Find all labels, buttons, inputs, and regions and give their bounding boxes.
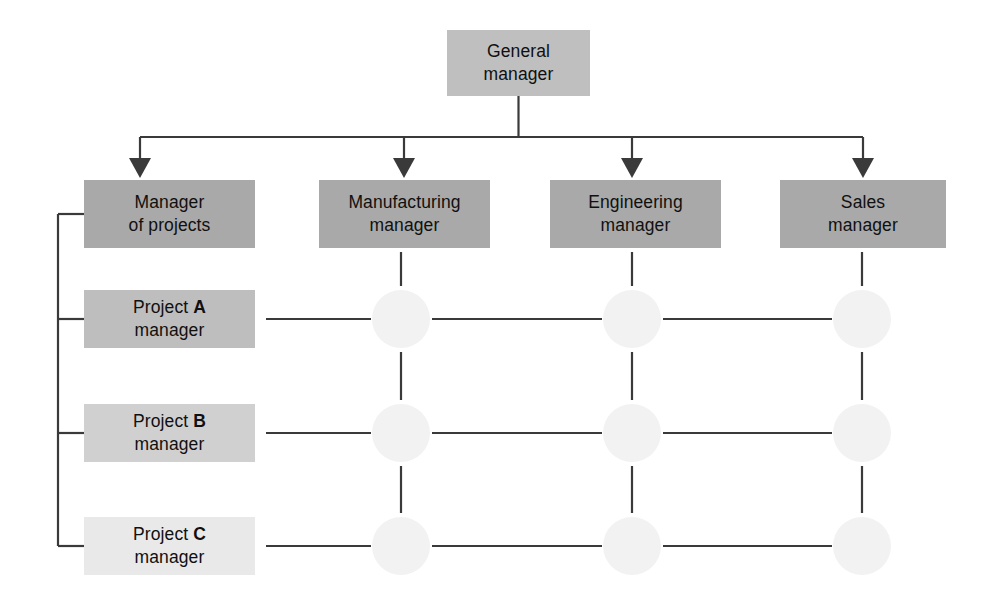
node-manufacturing-manager-line2: manager: [370, 214, 440, 237]
node-sales-manager[interactable]: Sales manager: [780, 180, 946, 248]
node-project-c-manager-line1: Project C: [133, 523, 206, 546]
project-a-prefix: Project: [133, 297, 193, 317]
arrowhead-engineering: [621, 158, 643, 178]
node-project-a-manager-line1: Project A: [133, 296, 206, 319]
arrowhead-manufacturing: [393, 158, 415, 178]
node-engineering-manager[interactable]: Engineering manager: [550, 180, 721, 248]
intersection-dot-manufacturing-project-a: [372, 290, 430, 348]
arrowhead-manager-of-projects: [129, 158, 151, 178]
node-general-manager[interactable]: General manager: [447, 30, 590, 96]
intersection-dot-sales-project-c: [833, 517, 891, 575]
node-general-manager-line2: manager: [484, 63, 554, 86]
org-chart-canvas: General manager Manager of projects Manu…: [0, 0, 991, 609]
node-project-a-manager[interactable]: Project A manager: [84, 290, 255, 348]
intersection-dot-sales-project-b: [833, 404, 891, 462]
intersection-dot-manufacturing-project-b: [372, 404, 430, 462]
project-c-prefix: Project: [133, 524, 193, 544]
node-manager-of-projects-line2: of projects: [129, 214, 211, 237]
node-sales-manager-line2: manager: [828, 214, 898, 237]
node-project-b-manager-line1: Project B: [133, 410, 206, 433]
arrowhead-sales: [852, 158, 874, 178]
node-project-c-manager[interactable]: Project C manager: [84, 517, 255, 575]
node-engineering-manager-line1: Engineering: [588, 191, 683, 214]
node-manufacturing-manager[interactable]: Manufacturing manager: [319, 180, 490, 248]
node-project-b-manager[interactable]: Project B manager: [84, 404, 255, 462]
project-c-letter: C: [193, 524, 206, 544]
node-manager-of-projects[interactable]: Manager of projects: [84, 180, 255, 248]
intersection-dot-sales-project-a: [833, 290, 891, 348]
node-general-manager-line1: General: [487, 40, 550, 63]
intersection-dot-engineering-project-c: [603, 517, 661, 575]
node-project-a-manager-line2: manager: [135, 319, 205, 342]
node-sales-manager-line1: Sales: [841, 191, 885, 214]
node-manager-of-projects-line1: Manager: [135, 191, 205, 214]
project-b-prefix: Project: [133, 411, 193, 431]
intersection-dot-engineering-project-a: [603, 290, 661, 348]
node-engineering-manager-line2: manager: [601, 214, 671, 237]
intersection-dot-manufacturing-project-c: [372, 517, 430, 575]
node-manufacturing-manager-line1: Manufacturing: [348, 191, 460, 214]
intersection-dot-engineering-project-b: [603, 404, 661, 462]
project-b-letter: B: [193, 411, 206, 431]
project-a-letter: A: [193, 297, 206, 317]
node-project-c-manager-line2: manager: [135, 546, 205, 569]
node-project-b-manager-line2: manager: [135, 433, 205, 456]
